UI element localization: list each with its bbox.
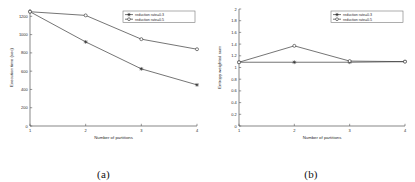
y-tick-label-5: 1 (235, 65, 238, 70)
chart-a-plot-area: 0200400600800100012001234Number of parti… (0, 0, 207, 155)
data-point-marker-star-legend-0 (127, 13, 130, 16)
legend-label-0: reduction rate=0.3 (135, 13, 164, 17)
y-tick-label-1: 200 (21, 105, 28, 110)
data-point-marker-circle-1-3 (196, 48, 199, 51)
y-tick-label-3: 600 (21, 69, 28, 74)
y-tick-label-9: 1.8 (231, 18, 237, 23)
data-point-marker-circle-1-0 (238, 61, 241, 64)
y-tick-label-7: 1.4 (231, 42, 237, 47)
chart-b-plot-area: 00.20.40.60.811.21.41.61.821234Number of… (207, 0, 415, 155)
data-point-marker-star-0-3 (195, 83, 199, 87)
x-axis-title: Number of partitions (303, 135, 342, 140)
data-point-marker-circle-1-1 (293, 44, 296, 47)
x-tick-label-0: 1 (238, 128, 241, 133)
chart-b-svg: 00.20.40.60.811.21.41.61.821234Number of… (207, 0, 415, 155)
subfigure-a-caption: (a) (0, 168, 207, 180)
data-point-marker-star-0-1 (84, 40, 88, 44)
figure-container: 0200400600800100012001234Number of parti… (0, 0, 415, 182)
x-tick-label-3: 4 (404, 128, 407, 133)
y-tick-label-2: 0.4 (231, 100, 237, 105)
data-point-marker-circle-1-2 (348, 60, 351, 63)
axis-frame (239, 9, 405, 126)
legend-label-0: reduction rate=0.3 (343, 13, 372, 17)
y-tick-label-5: 1000 (19, 32, 29, 37)
y-tick-label-3: 0.6 (231, 88, 237, 93)
data-point-marker-star-0-2 (139, 67, 143, 71)
data-point-marker-star-legend-0 (335, 13, 338, 16)
y-axis-title: Execution time (sec) (9, 47, 14, 86)
series-line-1 (239, 46, 405, 62)
x-axis-title: Number of partitions (94, 135, 133, 140)
chart-a-svg: 0200400600800100012001234Number of parti… (0, 0, 207, 155)
data-point-marker-circle-legend-1 (336, 18, 339, 21)
x-tick-label-1: 2 (293, 128, 296, 133)
y-tick-label-4: 0.8 (231, 77, 237, 82)
y-tick-label-1: 0.2 (231, 112, 237, 117)
y-tick-label-6: 1.2 (231, 53, 237, 58)
y-tick-label-8: 1.6 (231, 30, 237, 35)
y-tick-label-2: 400 (21, 87, 28, 92)
data-point-marker-circle-legend-1 (128, 18, 131, 21)
x-tick-label-2: 3 (349, 128, 352, 133)
data-point-marker-circle-1-3 (404, 60, 407, 63)
legend-label-1: reduction rate=0.5 (135, 18, 164, 22)
axis-frame (30, 9, 197, 126)
subfigure-b: 00.20.40.60.811.21.41.61.821234Number of… (207, 0, 415, 182)
x-tick-label-0: 1 (29, 128, 32, 133)
data-point-marker-star-0-1 (292, 60, 296, 64)
data-point-marker-circle-1-0 (29, 10, 32, 13)
x-tick-label-2: 3 (140, 128, 143, 133)
legend-label-1: reduction rate=0.5 (343, 18, 372, 22)
data-point-marker-circle-1-2 (140, 38, 143, 41)
x-tick-label-3: 4 (196, 128, 199, 133)
subfigure-b-caption: (b) (207, 168, 415, 180)
subfigure-a: 0200400600800100012001234Number of parti… (0, 0, 207, 182)
x-tick-label-1: 2 (85, 128, 88, 133)
y-tick-label-4: 800 (21, 50, 28, 55)
data-point-marker-circle-1-1 (84, 14, 87, 17)
series-line-0 (239, 62, 405, 63)
y-tick-label-6: 1200 (19, 14, 29, 19)
y-tick-label-10: 2 (235, 7, 238, 12)
y-axis-title: Entropy weighted sum (217, 46, 222, 89)
